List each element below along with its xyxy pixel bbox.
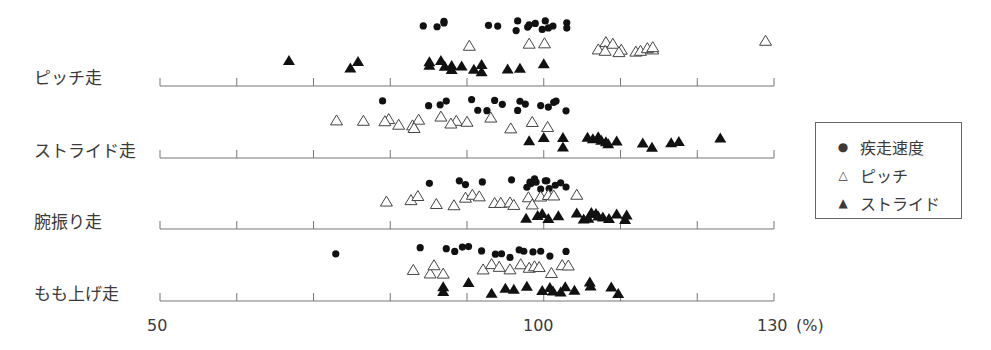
data-point (539, 38, 551, 48)
data-point (562, 248, 569, 255)
data-point (527, 180, 534, 187)
data-point (417, 244, 424, 251)
data-point (506, 254, 513, 261)
data-point (526, 21, 533, 28)
data-point (423, 56, 435, 66)
data-point (451, 248, 458, 255)
data-point (498, 250, 505, 257)
data-point (538, 132, 550, 142)
data-point (443, 245, 450, 252)
data-point (352, 56, 364, 66)
data-point (546, 252, 553, 259)
data-point (357, 115, 369, 125)
data-point (407, 264, 419, 274)
data-point (456, 60, 468, 70)
data-point (499, 101, 506, 108)
data-point (571, 208, 583, 218)
data-point (538, 58, 550, 68)
filled-circle-icon: ● (834, 140, 852, 154)
data-point (461, 116, 473, 126)
data-point (474, 107, 481, 114)
data-point (514, 107, 521, 114)
data-point (714, 132, 726, 142)
data-point (486, 288, 498, 298)
data-point (380, 196, 392, 206)
legend-item-pitch: △ ピッチ (834, 163, 908, 187)
data-point (529, 248, 536, 255)
data-point (552, 97, 559, 104)
data-point (492, 251, 499, 258)
data-point (523, 38, 535, 48)
data-point (542, 17, 549, 24)
legend-label-speed: 疾走速度 (860, 135, 924, 159)
data-point (542, 121, 554, 131)
data-point (412, 191, 424, 201)
data-point (513, 27, 520, 34)
row-label-arm-swing: 腕振り走 (34, 208, 102, 233)
data-point (571, 189, 583, 199)
data-point (514, 63, 526, 73)
legend: ● 疾走速度 △ ピッチ ▲ ストライド (815, 122, 962, 219)
data-point (448, 200, 460, 210)
data-point (478, 247, 485, 254)
data-point (426, 180, 433, 187)
data-point (479, 178, 486, 185)
data-point (332, 250, 339, 257)
row-label-stride: ストライド走 (34, 137, 136, 162)
data-point (468, 96, 475, 103)
data-point (437, 101, 444, 108)
data-point (562, 107, 569, 114)
data-point (537, 102, 544, 109)
data-point (557, 142, 569, 152)
data-point (465, 243, 472, 250)
data-point (673, 136, 685, 146)
data-point (514, 17, 521, 24)
data-point (520, 248, 527, 255)
data-point (505, 123, 517, 133)
data-point (760, 35, 772, 45)
row-label-pitch: ピッチ走 (34, 64, 102, 89)
data-point (542, 177, 549, 184)
data-point (502, 64, 514, 74)
data-point (522, 100, 529, 107)
legend-item-speed: ● 疾走速度 (834, 135, 924, 159)
data-point (563, 24, 570, 31)
data-point (544, 282, 556, 292)
data-point (428, 260, 440, 270)
x-tick-label-100: 100 (523, 316, 554, 335)
data-point (456, 177, 463, 184)
data-point (463, 40, 475, 50)
data-point (425, 102, 432, 109)
data-point (521, 281, 533, 291)
x-tick-label-130: 130 (757, 316, 788, 335)
data-point (463, 277, 475, 287)
data-point (462, 181, 469, 188)
data-point (435, 111, 447, 121)
row-label-high-knee: もも上げ走 (34, 280, 119, 305)
data-point (611, 209, 623, 219)
legend-label-pitch: ピッチ (860, 163, 908, 187)
data-point (420, 22, 427, 29)
data-point (549, 22, 556, 29)
data-point (331, 115, 343, 125)
data-point (508, 284, 520, 294)
data-point (537, 248, 544, 255)
data-point (621, 210, 633, 220)
data-point (515, 259, 527, 269)
data-point (545, 267, 557, 277)
data-point (523, 135, 535, 145)
data-point (637, 137, 649, 147)
axes-group (160, 78, 774, 301)
data-point (552, 210, 564, 220)
data-point (508, 176, 515, 183)
data-point (611, 136, 623, 146)
data-point (562, 184, 569, 191)
x-unit-label: (%) (796, 316, 824, 335)
data-point (491, 97, 498, 104)
data-point (520, 213, 532, 223)
data-point (443, 98, 450, 105)
data-point (435, 55, 447, 65)
legend-label-stride: ストライド (860, 191, 940, 215)
data-point (605, 282, 617, 292)
x-tick-label-50: 50 (147, 316, 167, 335)
